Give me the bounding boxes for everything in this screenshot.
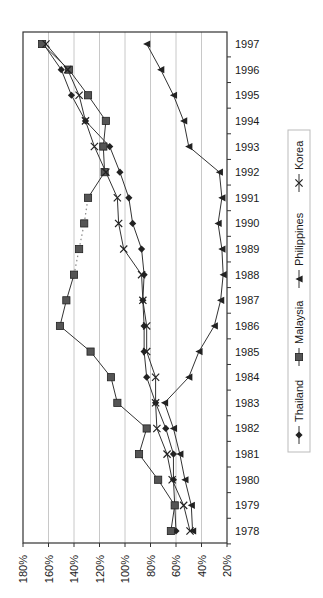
series-segment: [142, 275, 143, 301]
year-axis: 1978197919801981198219831984198519861987…: [227, 38, 259, 544]
year-tick-label: 1992: [235, 166, 259, 178]
year-tick-label: 1986: [235, 320, 259, 332]
series-thailand: [40, 40, 180, 534]
square-marker: [102, 117, 109, 124]
series-segment: [185, 480, 191, 506]
triangle-marker: [157, 66, 164, 73]
series-segment: [167, 454, 172, 480]
year-tick-label: 1979: [235, 499, 259, 511]
series-segment: [117, 403, 146, 429]
series-lines: [39, 40, 227, 534]
value-tick-label: 40%: [196, 555, 208, 577]
year-tick-label: 1981: [235, 448, 259, 460]
square-marker: [143, 425, 150, 432]
value-tick-label: 140%: [68, 555, 80, 583]
line-chart: 1978197919801981198219831984198519861987…: [0, 0, 323, 598]
value-tick-label: 120%: [94, 555, 106, 583]
diamond-marker: [129, 220, 136, 227]
diamond-marker: [143, 374, 150, 381]
series-philippines: [143, 40, 227, 534]
square-marker: [63, 297, 70, 304]
series-segment: [85, 121, 94, 147]
series-segment: [129, 198, 133, 224]
diamond-marker: [162, 425, 169, 432]
series-segment: [173, 95, 183, 121]
square-marker: [84, 194, 91, 201]
series-korea: [42, 40, 193, 534]
value-tick-label: 20%: [221, 555, 233, 577]
triangle-marker: [170, 425, 177, 432]
year-tick-label: 1994: [235, 115, 259, 127]
year-tick-label: 1996: [235, 64, 259, 76]
triangle-marker: [170, 92, 177, 99]
year-tick-label: 1989: [235, 243, 259, 255]
series-segment: [60, 326, 91, 352]
value-tick-label: 180%: [17, 555, 29, 583]
series-segment: [68, 70, 79, 96]
series-segment: [173, 428, 179, 454]
year-tick-label: 1991: [235, 192, 259, 204]
square-marker: [155, 476, 162, 483]
series-segment: [191, 505, 192, 531]
series-segment: [142, 249, 145, 275]
legend-label: Korea: [293, 140, 305, 170]
year-tick-label: 1997: [235, 38, 259, 50]
square-marker: [84, 92, 91, 99]
series-segment: [222, 249, 223, 275]
series-segment: [120, 172, 129, 198]
legend-label: Malaysia: [293, 300, 305, 344]
diamond-marker: [138, 245, 145, 252]
series-segment: [147, 377, 156, 403]
diamond-marker: [125, 194, 132, 201]
value-tick-label: 60%: [170, 555, 182, 577]
series-segment: [166, 428, 174, 454]
year-tick-label: 1980: [235, 474, 259, 486]
triangle-marker: [143, 40, 150, 47]
year-tick-label: 1995: [235, 89, 259, 101]
series-segment: [117, 198, 118, 224]
year-tick-label: 1987: [235, 294, 259, 306]
series-segment: [214, 300, 220, 326]
year-tick-label: 1983: [235, 397, 259, 409]
value-tick-label: 160%: [43, 555, 55, 583]
year-tick-label: 1993: [235, 141, 259, 153]
square-marker: [135, 451, 142, 458]
square-marker: [114, 399, 121, 406]
series-segment: [106, 172, 117, 198]
series-segment: [184, 121, 189, 147]
x-marker: [180, 502, 187, 509]
series-segment: [221, 275, 224, 301]
year-tick-label: 1988: [235, 269, 259, 281]
square-marker: [39, 40, 46, 47]
square-marker: [295, 353, 302, 360]
diamond-marker: [116, 169, 123, 176]
legend-label: Thailand: [293, 380, 305, 422]
series-segment: [189, 147, 220, 173]
value-tick-label: 80%: [145, 555, 157, 577]
value-tick-label: 100%: [119, 555, 131, 583]
square-marker: [167, 527, 174, 534]
series-segment: [219, 172, 222, 198]
square-marker: [56, 322, 63, 329]
x-marker: [91, 143, 98, 150]
year-tick-label: 1985: [235, 346, 259, 358]
series-segment: [161, 70, 174, 96]
square-marker: [107, 374, 114, 381]
triangle-marker: [211, 322, 218, 329]
square-marker: [70, 271, 77, 278]
value-axis: 180%160%140%120%100%80%60%40%20%: [17, 543, 233, 583]
series-segment: [124, 249, 142, 275]
series-segment: [165, 377, 189, 403]
triangle-marker: [161, 399, 168, 406]
legend: ThailandMalaysiaPhilippinesKorea: [288, 130, 310, 452]
year-tick-label: 1978: [235, 525, 259, 537]
square-marker: [81, 220, 88, 227]
series-segment: [157, 428, 167, 454]
square-marker: [76, 245, 83, 252]
series-malaysia: [39, 40, 179, 534]
year-tick-label: 1990: [235, 217, 259, 229]
series-segment: [144, 352, 147, 378]
series-segment: [189, 352, 199, 378]
series-segment: [133, 223, 142, 249]
series-segment: [165, 403, 174, 429]
